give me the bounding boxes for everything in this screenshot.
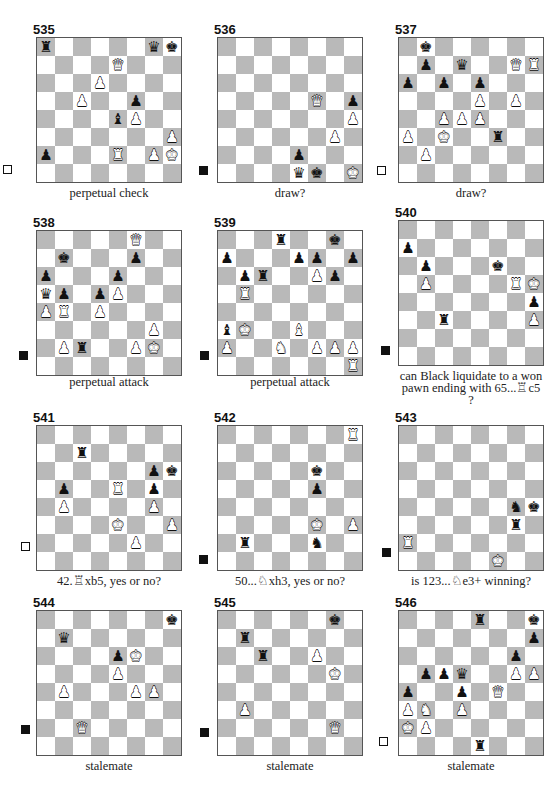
square-c1 <box>73 552 91 570</box>
square-a4: ♟ <box>399 683 417 701</box>
square-f6 <box>308 74 326 92</box>
square-e8 <box>471 38 489 56</box>
square-h6 <box>525 647 543 665</box>
square-a6: ♟ <box>399 74 417 92</box>
square-f2: ♞ <box>308 534 326 552</box>
square-d8 <box>453 38 471 56</box>
square-b6 <box>55 267 73 285</box>
square-g5 <box>145 92 163 110</box>
square-b5 <box>236 665 254 683</box>
white-queen-icon: ♛ <box>75 719 88 737</box>
square-b2: ♟ <box>417 146 435 164</box>
square-a5 <box>399 92 417 110</box>
square-h2 <box>525 534 543 552</box>
square-g1 <box>326 357 344 375</box>
square-f8 <box>489 38 507 56</box>
square-b5: ♜ <box>236 285 254 303</box>
square-b4 <box>236 303 254 321</box>
square-d5 <box>272 665 290 683</box>
square-e4 <box>290 683 308 701</box>
side-to-move-black-icon <box>19 351 28 360</box>
square-c4 <box>73 683 91 701</box>
square-a1 <box>218 357 236 375</box>
square-d4 <box>453 293 471 311</box>
square-c8 <box>73 38 91 56</box>
square-g3: ♟ <box>145 321 163 339</box>
square-h8 <box>344 611 362 629</box>
square-h4 <box>163 498 181 516</box>
black-rook-icon: ♜ <box>75 444 88 462</box>
square-h2: ♚ <box>163 146 181 164</box>
square-g3 <box>507 128 525 146</box>
square-e4: ♟ <box>471 110 489 128</box>
square-d8 <box>91 231 109 249</box>
black-pawn-icon: ♟ <box>419 56 432 74</box>
square-h4 <box>163 683 181 701</box>
square-f8 <box>489 221 507 239</box>
square-g7 <box>145 629 163 647</box>
black-king-icon: ♚ <box>491 257 504 275</box>
square-f4 <box>489 293 507 311</box>
white-pawn-icon: ♟ <box>346 339 359 357</box>
square-h7: ♟ <box>344 249 362 267</box>
square-d3 <box>91 321 109 339</box>
square-f7: ♟ <box>127 249 145 267</box>
square-a7 <box>37 444 55 462</box>
square-h1 <box>344 552 362 570</box>
square-f3 <box>127 321 145 339</box>
square-h8: ♚ <box>163 611 181 629</box>
square-g5: ♜ <box>507 275 525 293</box>
square-f4: ♛ <box>489 683 507 701</box>
square-c6 <box>435 257 453 275</box>
diagram-number: 546 <box>395 595 417 610</box>
square-a5 <box>218 480 236 498</box>
square-f3 <box>489 701 507 719</box>
square-b1 <box>417 347 435 365</box>
square-g4 <box>507 293 525 311</box>
black-pawn-icon: ♟ <box>111 647 124 665</box>
square-a6 <box>218 74 236 92</box>
square-h8 <box>525 38 543 56</box>
square-e4 <box>471 293 489 311</box>
square-h2 <box>525 146 543 164</box>
square-e4 <box>471 498 489 516</box>
square-a7: ♟ <box>218 249 236 267</box>
square-h8 <box>163 231 181 249</box>
square-c4 <box>73 498 91 516</box>
square-b5 <box>55 665 73 683</box>
square-b4 <box>417 110 435 128</box>
square-g6 <box>326 647 344 665</box>
square-e7 <box>109 444 127 462</box>
square-f4: ♟ <box>127 110 145 128</box>
square-a6: ♟ <box>37 267 55 285</box>
square-c3 <box>435 516 453 534</box>
square-e6 <box>109 74 127 92</box>
square-g5 <box>145 285 163 303</box>
square-d5: ♟ <box>91 285 109 303</box>
square-f2 <box>308 146 326 164</box>
white-pawn-icon: ♟ <box>310 647 323 665</box>
square-d8 <box>272 426 290 444</box>
square-b6 <box>417 74 435 92</box>
square-d4 <box>272 498 290 516</box>
square-g3 <box>145 128 163 146</box>
square-g6 <box>145 74 163 92</box>
square-a8 <box>399 38 417 56</box>
black-pawn-icon: ♟ <box>527 629 540 647</box>
diagram-caption: draw? <box>217 187 363 199</box>
square-f1 <box>308 552 326 570</box>
square-c5 <box>435 92 453 110</box>
square-f8: ♛ <box>127 231 145 249</box>
square-e1 <box>290 552 308 570</box>
square-a8 <box>37 611 55 629</box>
white-pawn-icon: ♟ <box>346 516 359 534</box>
square-b8 <box>55 426 73 444</box>
square-f2: ♟ <box>127 339 145 357</box>
square-f5 <box>127 665 145 683</box>
square-d2 <box>91 146 109 164</box>
square-d6 <box>91 267 109 285</box>
square-b4: ♜ <box>55 303 73 321</box>
square-e3: ♚ <box>109 516 127 534</box>
square-a4 <box>218 498 236 516</box>
square-e4: ♝ <box>109 110 127 128</box>
